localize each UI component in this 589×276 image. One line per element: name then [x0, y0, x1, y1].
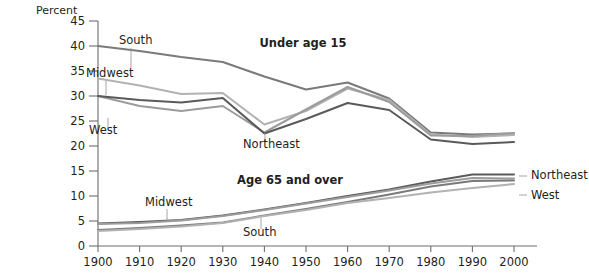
x-tick-label-1940: 1940 — [250, 255, 279, 269]
series-label-northeast-6: Northeast — [531, 168, 588, 182]
y-tick-label-30: 30 — [70, 89, 85, 103]
x-axis-ticks: 1900191019201930194019501960197019801990… — [83, 246, 528, 269]
panel-title-under-age-15: Under age 15 — [259, 36, 346, 50]
y-axis-label: Percent — [36, 4, 78, 17]
x-tick-label-1980: 1980 — [416, 255, 445, 269]
panel-title-age-65-and-over: Age 65 and over — [237, 173, 343, 187]
y-tick-label-5: 5 — [78, 214, 85, 228]
x-tick-label-1950: 1950 — [291, 255, 320, 269]
y-tick-label-20: 20 — [70, 139, 85, 153]
x-tick-label-1910: 1910 — [125, 255, 154, 269]
y-tick-label-10: 10 — [70, 189, 85, 203]
x-tick-label-1900: 1900 — [83, 255, 112, 269]
x-tick-label-1960: 1960 — [333, 255, 362, 269]
series-label-midwest-4: Midwest — [145, 195, 193, 209]
y-tick-label-40: 40 — [70, 39, 85, 53]
x-tick-label-1920: 1920 — [167, 255, 196, 269]
series-label-northeast-3: Northeast — [243, 137, 300, 151]
population-age-line-chart: 051015202530354045 190019101920193019401… — [0, 0, 589, 276]
x-tick-label-1990: 1990 — [458, 255, 487, 269]
y-tick-label-25: 25 — [70, 114, 85, 128]
series-label-west-2: West — [89, 123, 118, 137]
series-label-south-0: South — [119, 33, 152, 47]
y-tick-label-0: 0 — [78, 239, 85, 253]
series-label-west-7: West — [531, 188, 560, 202]
y-tick-label-35: 35 — [70, 64, 85, 78]
series-label-midwest-1: Midwest — [86, 66, 134, 80]
series-line-under-age-15-northeast — [98, 96, 514, 144]
chart-container: 051015202530354045 190019101920193019401… — [0, 0, 589, 276]
x-tick-label-1970: 1970 — [375, 255, 404, 269]
x-tick-label-2000: 2000 — [499, 255, 528, 269]
y-tick-label-15: 15 — [70, 164, 85, 178]
series-label-south-5: South — [243, 225, 276, 239]
panel-titles: Under age 15Age 65 and over — [237, 36, 347, 187]
x-tick-label-1930: 1930 — [208, 255, 237, 269]
